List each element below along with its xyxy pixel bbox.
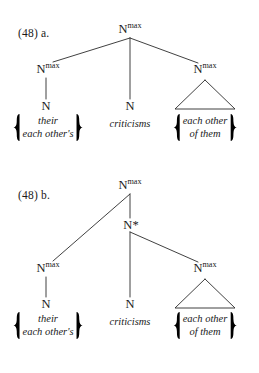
node-middle-n-b: N <box>125 297 134 312</box>
node-root-nmax-b: Nmax <box>118 178 141 193</box>
left-brace-icon <box>173 311 181 340</box>
branch-root-to-left <box>53 194 130 261</box>
terminal-middle-b: criticisms <box>110 316 151 328</box>
node-superscript: max <box>202 260 216 269</box>
node-superscript: max <box>45 260 59 269</box>
right-brace-glyph <box>75 113 83 142</box>
node-base-letter: N <box>41 99 50 113</box>
node-superscript: max <box>127 21 141 30</box>
branch-root-to-right <box>130 38 198 63</box>
right-brace-icon <box>75 113 83 142</box>
node-superscript: max <box>202 61 216 70</box>
node-middle-n-a: N <box>125 99 134 114</box>
left-brace-icon <box>13 113 21 142</box>
right-brace-glyph <box>229 311 237 340</box>
node-right-nmax-b: Nmax <box>193 261 216 276</box>
node-nstar-b: N* <box>123 218 138 233</box>
terminal-set-right-a: each other of them <box>173 113 238 142</box>
node-base-letter: N <box>36 261 45 275</box>
node-base-letter: N <box>125 297 134 311</box>
terminal-line-2: each other's <box>23 326 74 337</box>
kleene-star-glyph: * <box>132 218 138 232</box>
left-brace-glyph <box>173 113 181 142</box>
terminal-set-right-a-words: each other of them <box>181 115 230 140</box>
triangle-right <box>175 80 235 109</box>
node-base-letter: N <box>118 22 127 36</box>
node-superscript: max <box>127 177 141 186</box>
branch-root-to-left <box>53 38 130 62</box>
node-base-letter: N <box>193 62 202 76</box>
terminal-set-left-b-words: their each other's <box>21 313 76 338</box>
node-base-letter: N <box>125 99 134 113</box>
node-base-letter: N <box>123 218 132 232</box>
node-left-nmax-a: Nmax <box>36 62 59 77</box>
terminal-line-1: their <box>38 115 58 126</box>
example-48b-tree: (48) b. Nmax N* Nmax N N <box>0 180 259 373</box>
node-base-letter: N <box>36 62 45 76</box>
example-48a-tree: (48) a. Nmax Nmax N N Nmax <box>0 0 259 186</box>
terminal-set-left-a: their each other's <box>13 113 84 142</box>
left-brace-glyph <box>173 311 181 340</box>
tree-b-branch-lines <box>0 180 259 373</box>
terminal-line-2: of them <box>189 128 220 139</box>
branch-nstar-to-right <box>130 232 198 262</box>
right-brace-icon <box>229 311 237 340</box>
left-brace-icon <box>13 311 21 340</box>
terminal-line-1: criticisms <box>110 118 151 129</box>
right-brace-glyph <box>229 113 237 142</box>
node-base-letter: N <box>193 261 202 275</box>
right-brace-glyph <box>75 311 83 340</box>
terminal-set-right-b: each other of them <box>173 311 238 340</box>
node-right-nmax-a: Nmax <box>193 62 216 77</box>
terminal-set-left-b: their each other's <box>13 311 84 340</box>
node-left-nmax-b: Nmax <box>36 261 59 276</box>
terminal-line-1: their <box>38 313 58 324</box>
node-superscript: max <box>45 61 59 70</box>
syntax-tree-figure: (48) a. Nmax Nmax N N Nmax <box>0 0 259 373</box>
node-left-n-b: N <box>41 297 50 312</box>
node-left-n-a: N <box>41 99 50 114</box>
node-root-nmax-a: Nmax <box>118 22 141 37</box>
node-base-letter: N <box>118 178 127 192</box>
triangle-right <box>175 279 235 308</box>
terminal-line-1: each other <box>183 313 228 324</box>
node-base-letter: N <box>41 297 50 311</box>
terminal-line-1: criticisms <box>110 316 151 327</box>
terminal-line-2: of them <box>189 326 220 337</box>
terminal-line-1: each other <box>183 115 228 126</box>
right-brace-icon <box>75 311 83 340</box>
terminal-set-left-a-words: their each other's <box>21 115 76 140</box>
terminal-middle-a: criticisms <box>110 118 151 130</box>
left-brace-glyph <box>13 113 21 142</box>
left-brace-icon <box>173 113 181 142</box>
right-brace-icon <box>229 113 237 142</box>
terminal-line-2: each other's <box>23 128 74 139</box>
left-brace-glyph <box>13 311 21 340</box>
terminal-set-right-b-words: each other of them <box>181 313 230 338</box>
